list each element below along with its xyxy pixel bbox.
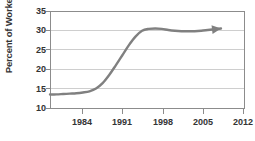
gridlines [50, 30, 244, 88]
chart-container: Percent of Workers 35 30 25 20 15 10 198… [0, 0, 255, 141]
x-axis-ticks [82, 108, 243, 114]
plot-area [0, 0, 255, 141]
trend-line [50, 28, 221, 94]
